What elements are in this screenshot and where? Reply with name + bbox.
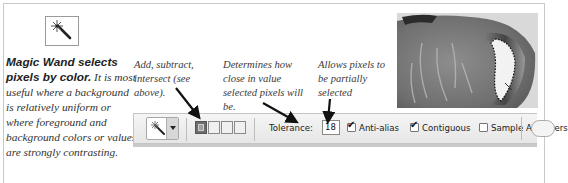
arrow-to-tolerance [263, 103, 295, 121]
arrow-to-selection-modes [176, 88, 198, 116]
arrow-to-anti-alias [328, 99, 330, 120]
